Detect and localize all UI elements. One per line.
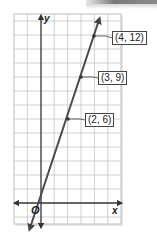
x-axis-label: x <box>112 205 118 216</box>
origin-label: O <box>31 204 40 216</box>
y-axis-label: y <box>44 13 50 24</box>
point-label-2-6: (2, 6) <box>85 113 114 127</box>
point-label-3-9: (3, 9) <box>98 71 127 85</box>
point-label-4-12: (4, 12) <box>112 31 147 45</box>
